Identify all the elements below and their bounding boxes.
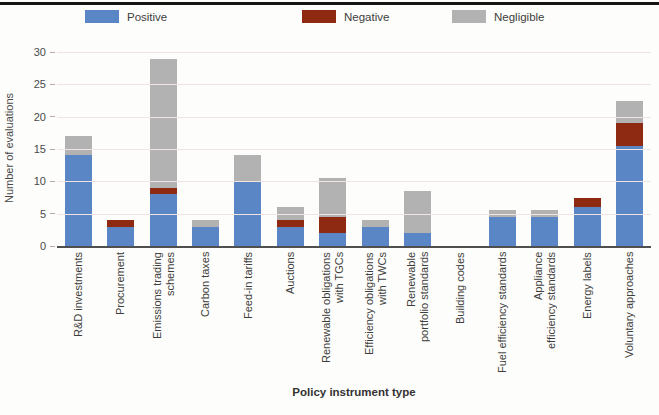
bar-segment-negative	[319, 217, 346, 233]
x-category-label: Fuel efficiency standards	[496, 252, 509, 378]
x-label-cell: Fuel efficiency standards	[481, 252, 523, 378]
bar-segment-negligible	[616, 101, 643, 124]
x-label-cell: Renewable portfolio standards	[396, 252, 438, 378]
stacked-bar	[150, 59, 177, 247]
gridline-y-30	[57, 52, 651, 53]
stacked-bar	[234, 155, 261, 246]
x-axis-labels: R&D investmentsProcurementEmissions trad…	[57, 252, 651, 378]
stacked-bar	[319, 178, 346, 246]
gridline-y-5	[57, 214, 651, 215]
bar-segment-positive	[489, 217, 516, 246]
y-tick-label: 25	[30, 78, 46, 90]
y-tick-label: 15	[30, 143, 46, 155]
bar-segment-positive	[404, 233, 431, 246]
x-category-label: Emissions trading schemes	[151, 252, 176, 378]
bar-segment-positive	[531, 217, 558, 246]
x-category-label: R&D investments	[72, 252, 85, 378]
bar-segment-negligible	[319, 178, 346, 217]
stacked-bar	[362, 220, 389, 246]
bar-segment-negative	[616, 123, 643, 146]
x-category-label: Building codes	[454, 252, 467, 378]
x-category-label: Voluntary approaches	[623, 252, 636, 378]
bar-segment-positive	[362, 227, 389, 246]
bar-segment-negligible	[404, 191, 431, 233]
x-label-cell: R&D investments	[57, 252, 99, 378]
bar-segment-negligible	[234, 155, 261, 181]
x-category-label: Energy labels	[581, 252, 594, 378]
gridline-y-10	[57, 181, 651, 182]
x-label-cell: Emissions trading schemes	[142, 252, 184, 378]
bar-segment-negative	[574, 198, 601, 208]
gridline-y-20	[57, 117, 651, 118]
y-tick-25: 25	[30, 78, 57, 90]
x-label-cell: Auctions	[269, 252, 311, 378]
y-tick-label: 10	[30, 175, 46, 187]
x-category-label: Auctions	[284, 252, 297, 378]
y-axis-title: Number of evaluations	[3, 83, 15, 213]
y-tick-10: 10	[30, 175, 57, 187]
y-tick-mark	[50, 116, 55, 117]
stacked-bar	[192, 220, 219, 246]
y-tick-label: 20	[30, 111, 46, 123]
y-tick-mark	[50, 181, 55, 182]
bar-segment-positive	[150, 194, 177, 246]
x-axis-title: Policy instrument type	[57, 386, 651, 398]
stacked-bar	[65, 136, 92, 246]
x-category-label: Procurement	[114, 252, 127, 378]
y-tick-mark	[50, 246, 55, 247]
x-category-label: Efficiency obligations with TWCs	[363, 252, 388, 378]
bar-segment-positive	[107, 227, 134, 246]
y-tick-label: 5	[30, 208, 46, 220]
stacked-bar	[107, 220, 134, 246]
x-label-cell: Feed-in tariffs	[227, 252, 269, 378]
y-tick-mark	[50, 149, 55, 150]
x-label-cell: Energy labels	[566, 252, 608, 378]
y-tick-20: 20	[30, 111, 57, 123]
x-label-cell: Renewable obligations with TGCs	[312, 252, 354, 378]
bar-segment-positive	[616, 146, 643, 246]
x-label-cell: Carbon taxes	[184, 252, 226, 378]
y-tick-label: 0	[30, 240, 46, 252]
stacked-bar	[574, 198, 601, 246]
stacked-bar	[404, 191, 431, 246]
x-category-label: Feed-in tariffs	[242, 252, 255, 378]
gridline-y-15	[57, 149, 651, 150]
y-tick-5: 5	[30, 208, 57, 220]
stacked-bar	[531, 210, 558, 246]
x-category-label: Renewable portfolio standards	[405, 252, 430, 378]
x-label-cell: Voluntary approaches	[608, 252, 650, 378]
bar-segment-negligible	[65, 136, 92, 155]
stacked-bar-chart-figure: PositiveNegativeNegligible 051015202530 …	[0, 0, 659, 415]
gridline-y-25	[57, 84, 651, 85]
y-tick-label: 30	[30, 46, 46, 58]
stacked-bar	[489, 210, 516, 246]
y-tick-mark	[50, 52, 55, 53]
x-label-cell: Building codes	[439, 252, 481, 378]
x-category-label: Carbon taxes	[199, 252, 212, 378]
bar-segment-positive	[192, 227, 219, 246]
x-label-cell: Procurement	[99, 252, 141, 378]
x-category-label: Renewable obligations with TGCs	[320, 252, 345, 378]
x-label-cell: Appliance efficiency standards	[524, 252, 566, 378]
stacked-bar	[616, 101, 643, 246]
bar-segment-positive	[65, 155, 92, 246]
bar-segment-positive	[319, 233, 346, 246]
x-category-label: Appliance efficiency standards	[532, 252, 557, 378]
bar-segment-negligible	[150, 59, 177, 188]
bar-segment-positive	[277, 227, 304, 246]
y-tick-mark	[50, 213, 55, 214]
y-tick-mark	[50, 84, 55, 85]
plot-area: 051015202530	[57, 52, 651, 248]
y-tick-0: 0	[30, 240, 57, 252]
y-tick-30: 30	[30, 46, 57, 58]
plot-wrapper: 051015202530 Number of evaluations R&D i…	[0, 0, 659, 415]
x-label-cell: Efficiency obligations with TWCs	[354, 252, 396, 378]
y-tick-15: 15	[30, 143, 57, 155]
